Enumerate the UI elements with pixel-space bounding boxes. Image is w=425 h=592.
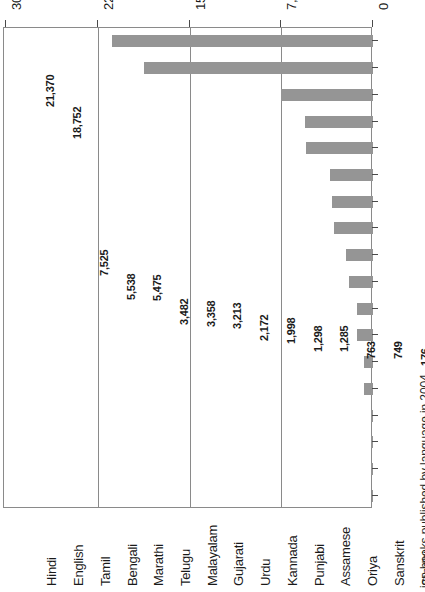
value-axis-tick <box>5 20 6 27</box>
value-label: 1,298 <box>313 326 324 353</box>
category-label: English <box>72 545 85 586</box>
bar <box>349 276 373 288</box>
category-label: Gujarati <box>232 542 245 586</box>
bar <box>371 410 373 422</box>
category-tick <box>372 227 378 228</box>
category-tick <box>372 415 378 416</box>
bar <box>357 303 373 315</box>
bar <box>144 62 373 74</box>
value-axis-tick <box>189 20 190 27</box>
value-label: 1,998 <box>286 317 297 344</box>
category-tick <box>372 174 378 175</box>
category-label: Sindhi <box>420 551 425 586</box>
category-label: Malayalam <box>206 525 219 586</box>
value-label: 176 <box>420 348 425 366</box>
category-tick <box>372 468 378 469</box>
value-label: 749 <box>393 341 404 359</box>
value-label: 3,213 <box>232 302 243 329</box>
value-axis-tick <box>280 20 281 27</box>
category-label: Tamil <box>99 557 112 586</box>
bar <box>305 116 373 128</box>
category-label: Kannada <box>286 535 299 586</box>
category-tick <box>372 495 378 496</box>
category-tick <box>372 334 378 335</box>
value-label: 5,475 <box>152 274 163 301</box>
value-axis-label: 15,000 <box>194 0 207 10</box>
category-tick <box>372 40 378 41</box>
value-label: 18,752 <box>72 106 83 138</box>
category-tick <box>372 94 378 95</box>
value-axis-label: 0 <box>377 3 390 10</box>
category-tick <box>372 201 378 202</box>
bar <box>371 463 373 475</box>
bar <box>306 142 373 154</box>
value-axis-tick <box>97 20 98 27</box>
plot-area <box>3 27 372 508</box>
bar <box>364 383 373 395</box>
category-tick <box>372 308 378 309</box>
category-label: Urdu <box>259 559 272 586</box>
category-tick <box>372 281 378 282</box>
bar <box>281 89 373 101</box>
bar <box>332 196 373 208</box>
category-tick <box>372 67 378 68</box>
value-label: 2,172 <box>259 315 270 342</box>
category-tick <box>372 121 378 122</box>
bar <box>371 436 373 448</box>
category-tick <box>372 441 378 442</box>
category-label: Punjabi <box>313 544 326 586</box>
category-label: Assamese <box>339 527 352 586</box>
category-label: Oriya <box>366 556 379 586</box>
value-label: 3,358 <box>206 300 217 327</box>
category-tick <box>372 361 378 362</box>
value-label: 3,482 <box>179 299 190 326</box>
category-label: Hindi <box>45 557 58 586</box>
bar <box>346 249 373 261</box>
bar <box>357 329 373 341</box>
category-label: Telugu <box>179 549 192 586</box>
value-axis-label: 22,500 <box>102 0 115 10</box>
bar <box>112 35 373 47</box>
category-label: Sanskrit <box>393 541 406 586</box>
category-tick <box>372 147 378 148</box>
value-axis-tick <box>372 20 373 27</box>
bar <box>372 490 374 502</box>
category-label: Marathi <box>152 544 165 586</box>
value-axis-label: 30,000 <box>10 0 23 10</box>
bar <box>330 169 373 181</box>
value-label: 5,538 <box>126 274 137 301</box>
value-label: 763 <box>366 341 377 359</box>
value-label: 7,525 <box>99 249 110 276</box>
gridline <box>190 28 191 507</box>
value-label: 1,285 <box>339 326 350 353</box>
category-tick <box>372 254 378 255</box>
category-label: Bengali <box>126 544 139 586</box>
bar-chart-figure: HindiEnglishTamilBengaliMarathiTeluguMal… <box>0 0 425 592</box>
value-axis-label: 7,500 <box>285 0 298 10</box>
value-label: 21,370 <box>45 74 56 106</box>
category-tick <box>372 388 378 389</box>
bar <box>334 222 373 234</box>
